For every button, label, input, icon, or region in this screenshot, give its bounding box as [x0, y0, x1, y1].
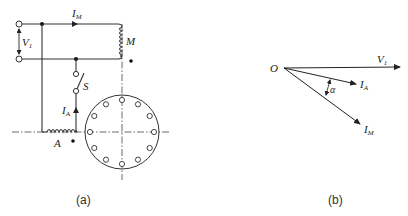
- origin-label: O: [270, 62, 278, 74]
- im-label: IM: [363, 123, 375, 137]
- v1-label: V1: [377, 53, 387, 67]
- switch-contact: [73, 88, 78, 93]
- current-aux-label: IA: [61, 104, 71, 118]
- switch-contact: [73, 71, 78, 76]
- main-coil: [118, 24, 122, 59]
- current-aux-arrow-icon: [73, 107, 79, 113]
- terminal-bottom: [16, 56, 22, 62]
- caption-b: (b): [328, 193, 343, 207]
- caption-a: (a): [76, 193, 91, 207]
- switch-label: S: [83, 80, 89, 92]
- terminal-top: [16, 21, 22, 27]
- current-main-label: IM: [71, 7, 83, 21]
- circuit-diagram-a: V1 IM S IA A M: [12, 7, 170, 207]
- v1-phasor: [284, 67, 400, 68]
- polarity-dot-main: [129, 59, 133, 63]
- current-main-arrow-icon: [72, 21, 78, 27]
- alpha-label: α: [330, 84, 336, 95]
- figure: V1 IM S IA A M: [0, 0, 408, 216]
- phasor-diagram-b: O V1 IA IM α (b): [270, 53, 400, 207]
- polarity-dot-aux: [71, 139, 75, 143]
- ia-label: IA: [359, 78, 369, 92]
- voltage-label: V1: [22, 36, 32, 50]
- aux-coil-label: A: [53, 137, 61, 149]
- main-coil-label: M: [125, 35, 136, 47]
